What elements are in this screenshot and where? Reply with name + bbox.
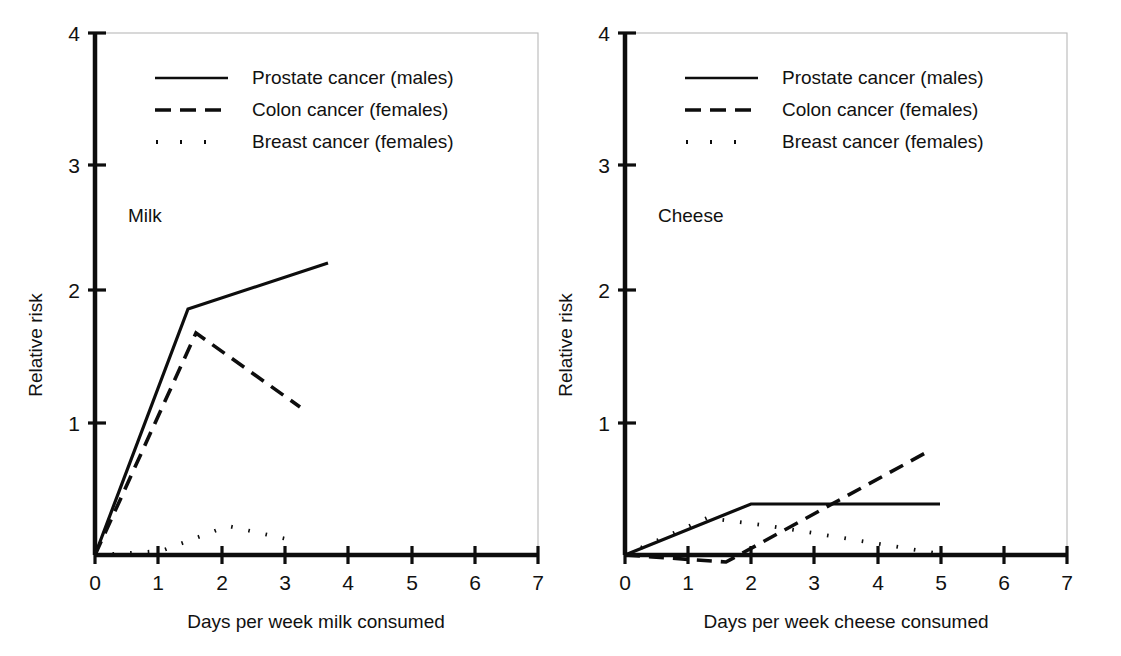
x-tick-label-0: 0	[619, 571, 631, 594]
x-tick-label-6: 6	[469, 571, 481, 594]
y-tick-label-3: 3	[68, 154, 80, 177]
series-line-colon-milk	[95, 333, 300, 555]
series-group	[625, 451, 947, 562]
panel-annotation-milk: Milk	[128, 205, 162, 226]
legend-label-colon: Colon cancer (females)	[252, 99, 448, 120]
x-tick-label-2: 2	[745, 571, 757, 594]
cheese-plot-svg: 4 3 2 1 0 1 2 3 4 5	[530, 0, 1090, 656]
y-tick-label-2: 2	[598, 279, 610, 302]
legend-label-prostate: Prostate cancer (males)	[782, 67, 984, 88]
y-tick-label-4: 4	[68, 22, 80, 45]
y-tick-label-1: 1	[598, 412, 610, 435]
y-tick-label-2: 2	[68, 279, 80, 302]
x-tick-label-group: 0 1 2 3 4 5 6 7	[619, 571, 1073, 594]
x-tick-label-6: 6	[998, 571, 1010, 594]
dual-line-chart-figure: 4 3 2 1 0 1 2 3 4 5	[0, 0, 1121, 656]
chart-panel-cheese: 4 3 2 1 0 1 2 3 4 5	[530, 0, 1090, 656]
legend-cheese: Prostate cancer (males) Colon cancer (fe…	[685, 67, 984, 152]
legend-label-prostate: Prostate cancer (males)	[252, 67, 454, 88]
series-line-prostate-cheese	[625, 504, 940, 555]
y-tick-label-4: 4	[598, 22, 610, 45]
legend-milk: Prostate cancer (males) Colon cancer (fe…	[155, 67, 454, 152]
y-tick-label-1: 1	[68, 412, 80, 435]
y-tick-label-group: 4 3 2 1	[68, 22, 80, 435]
panel-annotation-cheese: Cheese	[658, 205, 724, 226]
x-tick-label-5: 5	[406, 571, 418, 594]
legend-label-colon: Colon cancer (females)	[782, 99, 978, 120]
x-tick-label-4: 4	[342, 571, 354, 594]
legend-label-breast: Breast cancer (females)	[782, 131, 984, 152]
x-tick-label-0: 0	[89, 571, 101, 594]
series-line-breast-milk	[95, 526, 291, 555]
x-tick-label-1: 1	[682, 571, 694, 594]
y-tick-label-group: 4 3 2 1	[598, 22, 610, 435]
x-axis-title: Days per week milk consumed	[187, 611, 445, 632]
x-tick-label-1: 1	[152, 571, 164, 594]
x-tick-label-group: 0 1 2 3 4 5 6 7	[89, 571, 544, 594]
series-group	[95, 263, 328, 555]
x-tick-label-4: 4	[872, 571, 884, 594]
x-tick-label-5: 5	[935, 571, 947, 594]
series-line-prostate-milk	[95, 263, 328, 555]
y-axis-title: Relative risk	[25, 293, 46, 397]
milk-plot-svg: 4 3 2 1 0 1 2 3 4 5	[0, 0, 560, 656]
series-line-colon-cheese	[625, 451, 929, 562]
x-tick-label-7: 7	[1061, 571, 1073, 594]
x-tick-label-3: 3	[808, 571, 820, 594]
x-axis-title: Days per week cheese consumed	[703, 611, 988, 632]
x-tick-label-2: 2	[216, 571, 228, 594]
y-tick-label-3: 3	[598, 154, 610, 177]
legend-label-breast: Breast cancer (females)	[252, 131, 454, 152]
y-axis-title: Relative risk	[555, 293, 576, 397]
chart-panel-milk: 4 3 2 1 0 1 2 3 4 5	[0, 0, 560, 656]
x-tick-label-3: 3	[279, 571, 291, 594]
